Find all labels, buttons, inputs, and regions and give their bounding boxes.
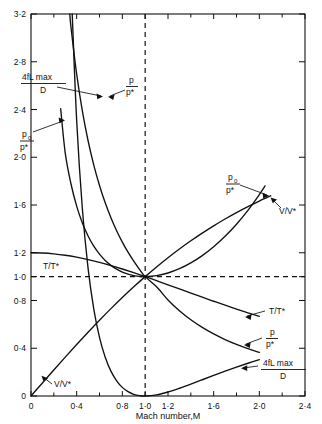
annotation-p-over-pstar-right: p p* [266,327,278,349]
annotation-fanno-bottom-numerator: 4fL max [263,358,294,368]
annotation-p-right-denominator: p* [266,339,275,349]
annotation-v-over-vstar-left: V/V* [54,379,72,389]
annotation-p-right-numerator: p [270,327,275,337]
annotation-fanno-top-left-denominator: D [40,85,46,95]
arrowhead-fanno-bottom [241,365,247,371]
y-tick-label: 1·6 [14,200,27,210]
annotation-p-top-numerator: p [129,75,134,85]
y-tick-label: 2·4 [14,105,27,115]
y-tick-label: 1·2 [14,248,27,258]
axis-ticks [31,14,305,396]
x-axis-title: Mach number,M [136,411,201,421]
annotation-p0-right-denominator: p* [226,185,235,195]
x-tick-label: 2·4 [299,401,312,411]
annotation-fanno-bottom-denominator: D [280,371,286,381]
annotation-t-over-tstar-right: T/T* [269,306,286,316]
leader-p-top [110,90,125,96]
leader-p-right [246,338,262,344]
x-tick-label: 1·6 [208,401,221,411]
annotation-leaders [33,87,281,384]
annotation-fanno-top-left: 4fL max D [21,72,66,95]
annotation-p0-over-pstar-left: p 0 p* [20,129,34,152]
x-tick-label: 0·8 [116,401,129,411]
y-tick-label: 0 [21,391,26,401]
y-tick-label: 0·8 [14,296,27,306]
x-tick-label: 1·0 [139,401,152,411]
plot-frame [31,14,305,396]
y-tick-label: 2·0 [14,152,27,162]
curve-4flmax-d [72,14,259,396]
x-tick-label: 0 [29,401,34,411]
annotation-fanno-top-left-numerator: 4fL max [22,72,53,82]
data-curves [31,14,271,396]
leader-p0-left [33,121,63,132]
y-tick-label: 1·0 [14,272,27,282]
annotation-v-over-vstar-right: V/V* [279,206,297,216]
x-tick-label: 0·4 [71,401,84,411]
annotation-p0-left-denominator: p* [20,142,29,152]
y-tick-label: 0·4 [14,343,27,353]
annotation-p0-right-numerator: p [228,172,233,182]
axis-tick-labels: 00·40·81·01·21·62·02·400·40·81·01·21·62·… [14,9,312,411]
annotation-t-over-tstar-left: T/T* [43,261,60,271]
annotation-p-over-pstar-top: p p* [126,75,138,97]
annotation-fanno-bottom-right: 4fL max D [261,358,306,381]
chart-svg: 00·40·81·01·21·62·02·400·40·81·01·21·62·… [0,0,322,424]
annotation-p-top-denominator: p* [126,87,135,97]
reference-lines [31,14,305,396]
annotation-p0-over-pstar-right: p 0 p* [226,172,240,195]
curve-p-p- [70,14,260,352]
arrowhead-t-right [245,314,252,320]
curve-p0-p- [61,109,265,277]
fanno-flow-chart-figure: 00·40·81·01·21·62·02·400·40·81·01·21·62·… [0,0,322,424]
y-tick-label: 2·8 [14,57,27,67]
plot-border [31,14,305,396]
annotation-p0-right-subscript: 0 [234,178,238,184]
annotation-p0-left-numerator: p [22,129,27,139]
y-tick-label: 3·2 [14,9,27,19]
arrowhead-fanno-top [97,94,104,100]
x-tick-label: 2·0 [253,401,266,411]
x-tick-label: 1·2 [162,401,175,411]
